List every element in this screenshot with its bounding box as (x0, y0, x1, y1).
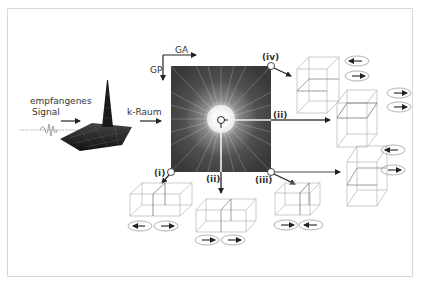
label-gp: GP (150, 65, 162, 75)
corner-marker-i (168, 169, 175, 176)
voxel-box-iii (275, 183, 320, 215)
label-position-iv: (iv) (262, 52, 279, 62)
label-received-signal-line1: empfangenes (30, 96, 92, 106)
label-position-i: (i) (154, 168, 165, 178)
voxel-box-iii-right (347, 146, 387, 206)
voxel-box-ii-right (337, 90, 377, 147)
label-received-signal-line2: Signal (32, 107, 60, 117)
label-kspace: k-Raum (127, 107, 162, 117)
arrow-iii-down (274, 174, 295, 184)
voxel-box-ii-bottom (196, 199, 256, 232)
kspace-mesh-plot (60, 80, 132, 151)
label-position-ii-down: (ii) (206, 174, 220, 184)
arrow-iv (274, 68, 291, 76)
voxel-box-iv (297, 57, 339, 113)
corner-marker-iv (268, 63, 275, 70)
voxel-box-i (130, 183, 192, 216)
label-position-iii: (iii) (255, 175, 272, 185)
label-ga: GA (175, 45, 188, 55)
label-position-ii-right: (ii) (273, 110, 287, 120)
kspace-diagram-canvas (0, 0, 431, 289)
